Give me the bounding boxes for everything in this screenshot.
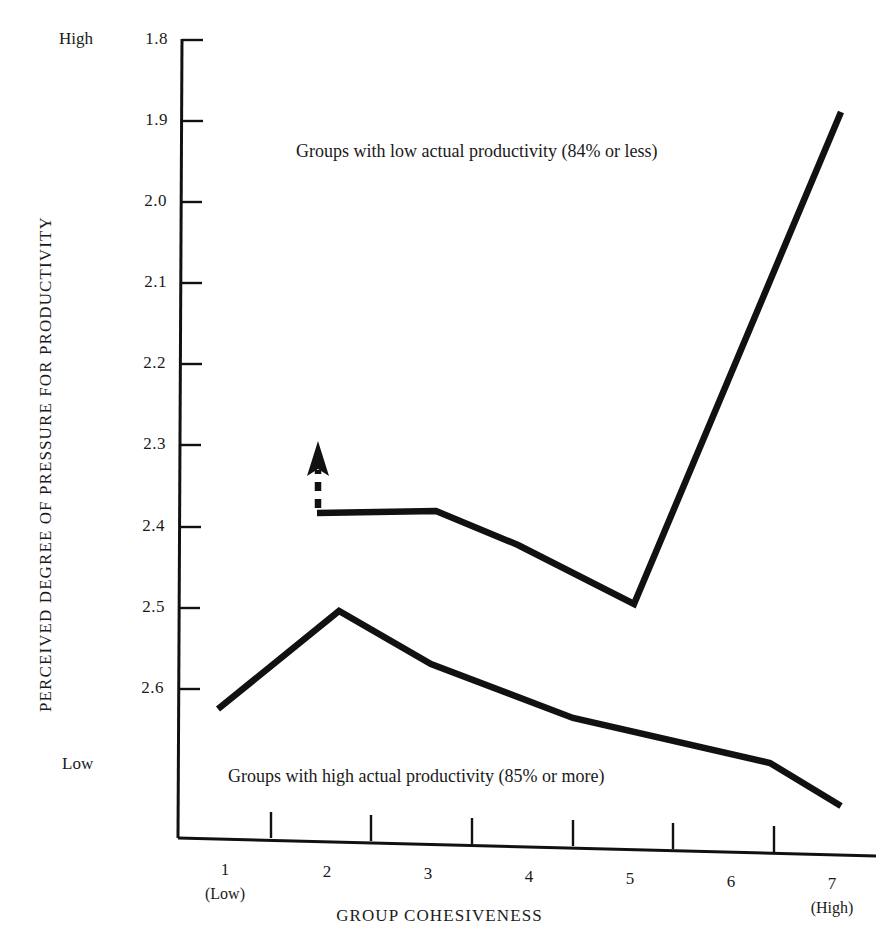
- x-axis-spine: [178, 838, 876, 856]
- x-tick-label-7: 7: [812, 874, 852, 894]
- x-axis-title: GROUP COHESIVENESS: [0, 906, 879, 926]
- y-tick-label-2-1: 2.1: [107, 272, 167, 292]
- x-tick-label-1: 1: [205, 860, 245, 880]
- y-axis-title: PERCEIVED DEGREE OF PRESSURE FOR PRODUCT…: [36, 216, 56, 712]
- chart-figure: 1.8 1.9 2.0 2.1 2.2 2.3 2.4 2.5 2.6 High…: [0, 0, 879, 947]
- series-low-productivity-line: [317, 112, 841, 604]
- annotation-high-productivity: Groups with high actual productivity (85…: [228, 766, 604, 787]
- x-tick-label-5: 5: [610, 869, 650, 889]
- x-tick-label-2: 2: [307, 862, 347, 882]
- y-tick-label-1-9: 1.9: [108, 110, 168, 130]
- y-tick-label-2-0: 2.0: [107, 191, 167, 211]
- x-tick-label-3: 3: [408, 864, 448, 884]
- y-tick-label-2-2: 2.2: [106, 353, 166, 373]
- x-tick-label-4: 4: [509, 867, 549, 887]
- y-tick-label-2-4: 2.4: [105, 516, 165, 536]
- y-tick-label-2-3: 2.3: [106, 434, 166, 454]
- x-tick-label-6: 6: [711, 872, 751, 892]
- y-axis-spine: [178, 39, 182, 838]
- x-axis-low-sublabel: (Low): [190, 885, 260, 903]
- annotation-low-productivity: Groups with low actual productivity (84%…: [296, 141, 657, 162]
- y-tick-label-1-8: 1.8: [108, 29, 168, 49]
- y-tick-label-2-5: 2.5: [105, 597, 165, 617]
- y-axis-low-label: Low: [62, 754, 93, 774]
- y-tick-label-2-6: 2.6: [104, 678, 164, 698]
- series-low-productivity: [307, 112, 841, 604]
- y-axis-high-label: High: [59, 29, 93, 49]
